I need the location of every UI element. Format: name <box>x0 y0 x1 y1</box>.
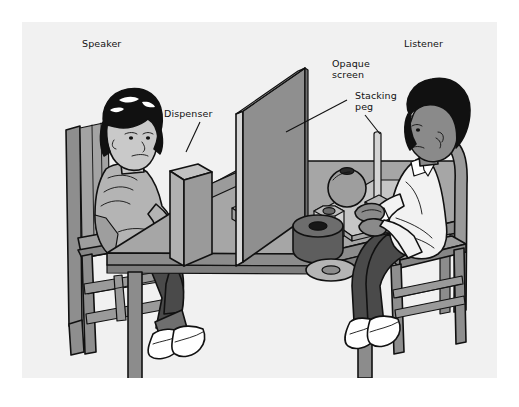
label-stacking-peg: Stacking peg <box>355 90 397 112</box>
label-speaker: Speaker <box>82 38 121 49</box>
leader-stacking-peg <box>365 115 380 134</box>
label-opaque-screen: Opaque screen <box>332 58 370 80</box>
figure-canvas: .ol{stroke:#111;stroke-width:1.6;stroke-… <box>0 0 519 407</box>
leader-dispenser <box>186 122 200 152</box>
flat-washer-object <box>306 259 356 281</box>
label-dispenser: Dispenser <box>164 108 212 119</box>
dark-cylinder-object <box>293 215 343 263</box>
dispenser <box>170 164 212 266</box>
label-listener: Listener <box>404 38 443 49</box>
illustration-panel: .ol{stroke:#111;stroke-width:1.6;stroke-… <box>22 22 497 378</box>
scene-illustration: .ol{stroke:#111;stroke-width:1.6;stroke-… <box>22 22 497 378</box>
sphere-object <box>328 168 366 207</box>
